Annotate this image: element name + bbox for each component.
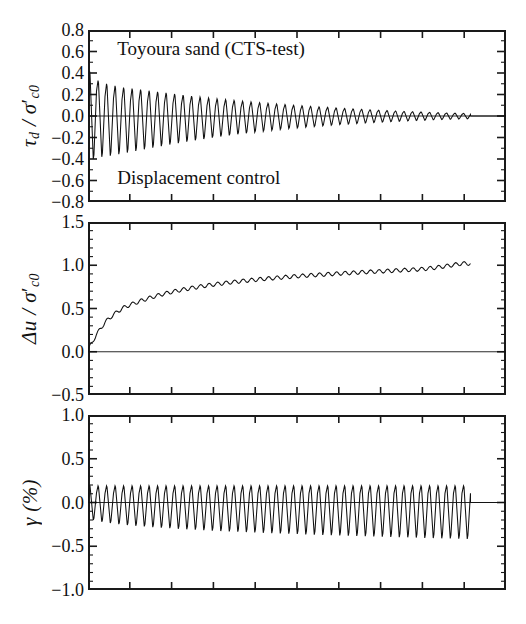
y-tick-label: 0.2 <box>40 84 84 105</box>
panel-plot-area <box>88 415 506 590</box>
y-tick-label: −0.5 <box>40 385 84 406</box>
figure-cyclic-torsional-shear-test: Toyoura sand (CTS-test) Displacement con… <box>0 0 526 624</box>
panel-shear-stress-ratio: Toyoura sand (CTS-test) Displacement con… <box>88 30 506 202</box>
panel-pore-pressure-ratio <box>88 222 506 395</box>
annotation-subtitle: Displacement control <box>117 167 280 189</box>
y-tick-label: 1.0 <box>40 255 84 276</box>
y-tick-label: −0.5 <box>40 536 84 557</box>
y-tick-label: 1.0 <box>40 405 84 426</box>
y-tick-label: 0.0 <box>40 106 84 127</box>
y-tick-label: −0.2 <box>40 127 84 148</box>
y-tick-label: 0.4 <box>40 63 84 84</box>
y-tick-label: 0.5 <box>40 448 84 469</box>
y-tick-label: 0.0 <box>40 492 84 513</box>
y-tick-label: 0.6 <box>40 41 84 62</box>
y-tick-label: 1.5 <box>40 212 84 233</box>
y-tick-label: 0.8 <box>40 20 84 41</box>
panel-plot-area <box>88 222 506 395</box>
annotation-title: Toyoura sand (CTS-test) <box>117 38 305 60</box>
y-tick-label: −1.0 <box>40 580 84 601</box>
y-tick-label: 0.5 <box>40 298 84 319</box>
y-tick-label: 0.0 <box>40 341 84 362</box>
y-tick-label: −0.8 <box>40 192 84 213</box>
y-tick-label: −0.4 <box>40 149 84 170</box>
panel-shear-strain <box>88 415 506 590</box>
y-tick-label: −0.6 <box>40 170 84 191</box>
